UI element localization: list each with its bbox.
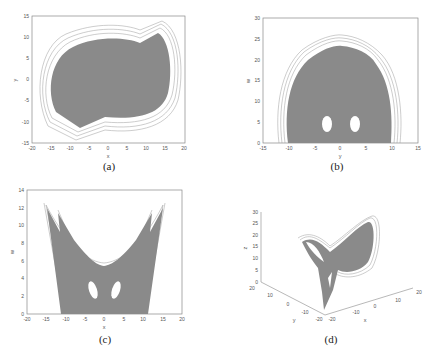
- y-axis-label: y: [293, 317, 296, 323]
- caption-d: (d): [311, 333, 351, 345]
- svg-text:10: 10: [395, 297, 401, 303]
- svg-text:5: 5: [255, 267, 258, 273]
- svg-text:-5: -5: [87, 145, 92, 151]
- y-axis-label: w: [245, 79, 251, 84]
- svg-text:6: 6: [21, 258, 24, 264]
- svg-text:-5: -5: [25, 97, 30, 103]
- svg-text:12: 12: [18, 205, 24, 211]
- subplot-c: -20 -15 -10 -5 0 5 10 15 20 0 2 4 6 8 10…: [0, 180, 220, 362]
- phase-portrait-xy: -20 -15 -10 -5 0 5 10 15 20 -15 -10 -5 0…: [0, 0, 220, 180]
- svg-text:-5: -5: [83, 316, 88, 322]
- subplot-d: 0 5 10 15 20 25 30 20 10 0 -10 -20 -20 -…: [220, 180, 436, 362]
- svg-text:10: 10: [140, 316, 146, 322]
- svg-text:25: 25: [254, 36, 260, 42]
- svg-text:0: 0: [287, 301, 290, 307]
- svg-text:15: 15: [254, 77, 260, 83]
- svg-text:15: 15: [252, 243, 258, 249]
- svg-text:-20: -20: [315, 316, 322, 322]
- svg-text:10: 10: [254, 98, 260, 104]
- caption-b: (b): [317, 160, 357, 172]
- svg-text:0: 0: [21, 311, 24, 317]
- svg-text:-10: -10: [301, 309, 308, 315]
- svg-text:-20: -20: [28, 145, 35, 151]
- svg-text:20: 20: [249, 285, 255, 291]
- svg-text:5: 5: [257, 119, 260, 125]
- svg-text:-10: -10: [22, 119, 29, 125]
- phase-portrait-yw: -15 -10 -5 0 5 10 15 0 5 10 15 20 25 30 …: [220, 0, 436, 180]
- svg-text:-5: -5: [313, 145, 318, 151]
- hole-right: [350, 116, 360, 132]
- svg-text:15: 15: [23, 13, 29, 19]
- subplot-b: -15 -10 -5 0 5 10 15 0 5 10 15 20 25 30 …: [220, 0, 436, 180]
- x-axis-label: x: [103, 324, 106, 330]
- svg-text:15: 15: [415, 145, 421, 151]
- svg-text:2: 2: [21, 293, 24, 299]
- caption-a: (a): [89, 160, 129, 172]
- svg-text:20: 20: [179, 316, 185, 322]
- svg-text:4: 4: [21, 275, 24, 281]
- svg-text:-15: -15: [42, 316, 49, 322]
- subplot-a: -20 -15 -10 -5 0 5 10 15 20 -15 -10 -5 0…: [0, 0, 220, 180]
- svg-text:8: 8: [21, 240, 24, 246]
- svg-text:0: 0: [257, 140, 260, 146]
- svg-text:25: 25: [252, 220, 258, 226]
- x-axis-label: y: [339, 153, 342, 159]
- svg-text:5: 5: [123, 316, 126, 322]
- svg-text:0: 0: [255, 279, 258, 285]
- hole-left: [322, 116, 332, 132]
- svg-text:-15: -15: [47, 145, 54, 151]
- z-axis-label: z: [242, 246, 248, 249]
- svg-text:0: 0: [339, 145, 342, 151]
- y-axis-label: y: [12, 78, 18, 81]
- svg-text:10: 10: [389, 145, 395, 151]
- svg-text:15: 15: [160, 316, 166, 322]
- svg-text:5: 5: [365, 145, 368, 151]
- svg-text:5: 5: [26, 55, 29, 61]
- svg-text:0: 0: [26, 76, 29, 82]
- svg-text:0: 0: [103, 316, 106, 322]
- svg-text:10: 10: [23, 34, 29, 40]
- svg-text:10: 10: [252, 255, 258, 261]
- svg-text:15: 15: [162, 145, 168, 151]
- svg-text:0: 0: [374, 303, 377, 309]
- svg-text:10: 10: [143, 145, 149, 151]
- y-axis-label: w: [9, 250, 15, 255]
- caption-c: (c): [85, 333, 125, 345]
- svg-text:-10: -10: [62, 316, 69, 322]
- svg-text:20: 20: [254, 57, 260, 63]
- svg-text:14: 14: [18, 187, 24, 193]
- svg-text:30: 30: [254, 15, 260, 21]
- svg-text:5: 5: [126, 145, 129, 151]
- x-axis-label: x: [107, 153, 110, 159]
- svg-text:-20: -20: [328, 316, 335, 322]
- svg-text:20: 20: [181, 145, 187, 151]
- svg-text:30: 30: [252, 209, 258, 215]
- svg-text:-10: -10: [66, 145, 73, 151]
- svg-text:-10: -10: [285, 145, 292, 151]
- x-axis-label: x: [364, 317, 367, 323]
- svg-text:-15: -15: [22, 140, 29, 146]
- svg-text:0: 0: [107, 145, 110, 151]
- svg-text:10: 10: [18, 222, 24, 228]
- svg-text:-20: -20: [23, 316, 30, 322]
- svg-text:-10: -10: [352, 309, 359, 315]
- svg-text:20: 20: [416, 289, 422, 295]
- svg-text:20: 20: [252, 232, 258, 238]
- svg-text:-15: -15: [259, 145, 266, 151]
- svg-text:10: 10: [267, 292, 273, 298]
